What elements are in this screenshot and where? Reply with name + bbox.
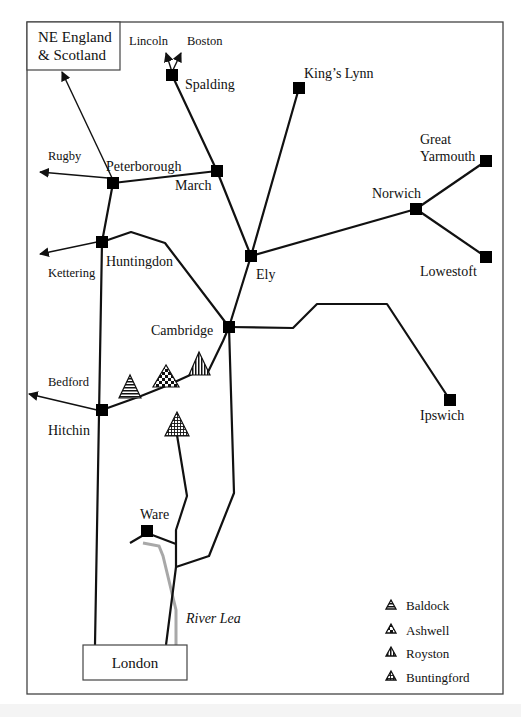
station-norwich	[410, 203, 422, 215]
label-lowestoft: Lowestoft	[420, 264, 477, 279]
legend-ashwell-label: Ashwell	[406, 623, 450, 638]
station-cambridge	[223, 321, 235, 333]
legend: Baldock Ashwell Royston Buntingford	[386, 598, 470, 685]
arrow-kettering	[40, 242, 97, 254]
label-rugby: Rugby	[48, 149, 82, 163]
arrow-rugby	[40, 172, 108, 178]
label-kettering: Kettering	[48, 266, 96, 280]
label-peterborough: Peterborough	[106, 159, 181, 174]
legend-baldock-label: Baldock	[406, 598, 450, 613]
station-huntingdon	[96, 236, 108, 248]
label-great-yarmouth-2: Yarmouth	[420, 149, 475, 164]
page-bottom-strip	[0, 704, 521, 717]
label-river-lea: River Lea	[185, 611, 241, 626]
railway-map: NE England & Scotland London Spalding Ki…	[0, 0, 521, 717]
label-ipswich: Ipswich	[420, 408, 464, 423]
legend-baldock-icon	[386, 600, 396, 609]
label-cambridge: Cambridge	[151, 323, 213, 338]
station-lowestoft	[480, 251, 492, 263]
label-spalding: Spalding	[185, 77, 235, 92]
ne-scotland-label: & Scotland	[38, 47, 106, 63]
station-march	[211, 165, 223, 177]
legend-buntingford-icon	[386, 671, 396, 680]
label-ely: Ely	[256, 267, 275, 282]
map-frame	[27, 22, 503, 694]
legend-ashwell-icon	[386, 624, 396, 633]
legend-royston-icon	[386, 647, 396, 656]
london-label: London	[112, 655, 159, 671]
label-bedford: Bedford	[48, 375, 90, 389]
label-lincoln: Lincoln	[129, 34, 169, 48]
label-huntingdon: Huntingdon	[106, 254, 173, 269]
legend-royston-label: Royston	[406, 646, 450, 661]
station-hitchin	[96, 404, 108, 416]
town-triangles	[119, 352, 210, 436]
royston-triangle-icon	[189, 352, 210, 375]
label-ware: Ware	[140, 507, 169, 522]
station-ely	[245, 250, 257, 262]
legend-buntingford-label: Buntingford	[406, 670, 470, 685]
river-lea-line	[143, 543, 176, 645]
label-march: March	[175, 178, 212, 193]
buntingford-triangle-icon	[165, 412, 189, 436]
label-boston: Boston	[187, 34, 223, 48]
station-kings-lynn	[293, 82, 305, 94]
ne-england-label: NE England	[38, 29, 112, 45]
station-great-yarmouth	[480, 155, 492, 167]
station-spalding	[166, 69, 178, 81]
arrow-bedford	[29, 394, 97, 410]
label-norwich: Norwich	[372, 186, 421, 201]
station-ipswich	[444, 394, 456, 406]
label-kings-lynn: King’s Lynn	[304, 66, 374, 81]
baldock-triangle-icon	[119, 375, 141, 398]
station-ware	[141, 525, 153, 537]
ashwell-triangle-icon	[153, 365, 179, 387]
label-hitchin: Hitchin	[48, 423, 90, 438]
station-peterborough	[107, 177, 119, 189]
label-great-yarmouth-1: Great	[420, 132, 451, 147]
